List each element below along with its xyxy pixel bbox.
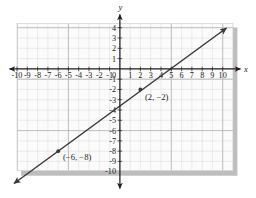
x-axis-label: x xyxy=(243,64,248,74)
coordinate-plane-svg: -10 -9 -8 -7 -6 -5 -4 -3 -2 -1 1 2 3 4 5… xyxy=(0,0,256,198)
y-tick-label: 2 xyxy=(112,44,116,53)
x-tick-label: -10 xyxy=(12,71,23,80)
x-tick-label: -4 xyxy=(75,71,82,80)
point-marker xyxy=(139,88,143,92)
x-tick-label: 1 xyxy=(128,71,132,80)
point-marker xyxy=(56,149,60,153)
y-tick-label: -4 xyxy=(109,106,116,115)
x-tick-label: 10 xyxy=(219,71,227,80)
x-tick-label: 8 xyxy=(200,71,204,80)
y-tick-label: 1 xyxy=(112,55,116,64)
y-tick-label: -8 xyxy=(109,147,116,156)
x-tick-label: 3 xyxy=(149,71,153,80)
y-tick-label: -5 xyxy=(109,116,116,125)
x-tick-label: -2 xyxy=(96,71,103,80)
x-tick-label: -3 xyxy=(86,71,93,80)
x-tick-label: 9 xyxy=(210,71,214,80)
x-tick-label: -5 xyxy=(65,71,72,80)
y-axis-label: y xyxy=(118,2,123,12)
y-tick-label: -2 xyxy=(109,85,116,94)
x-tick-label: 5 xyxy=(169,71,173,80)
origin-label: 0 xyxy=(112,71,116,80)
plot-background xyxy=(17,24,233,171)
x-tick-label: 2 xyxy=(138,71,142,80)
x-tick-label: 7 xyxy=(190,71,194,80)
y-tick-label: -10 xyxy=(105,167,116,176)
x-tick-label: -7 xyxy=(44,71,51,80)
x-tick-label: -9 xyxy=(24,71,31,80)
y-tick-label: -3 xyxy=(109,96,116,105)
x-tick-label: -6 xyxy=(55,71,62,80)
graph-figure: -10 -9 -8 -7 -6 -5 -4 -3 -2 -1 1 2 3 4 5… xyxy=(0,0,256,198)
x-tick-label: 6 xyxy=(180,71,184,80)
x-tick-label: -8 xyxy=(34,71,41,80)
y-tick-label: 4 xyxy=(112,24,116,33)
x-tick-label: 4 xyxy=(159,71,163,80)
y-tick-label: -6 xyxy=(109,127,116,136)
point-label-2: (−6, −8) xyxy=(63,152,91,162)
y-tick-label: -9 xyxy=(109,157,116,166)
y-tick-label: -7 xyxy=(109,137,116,146)
point-label-1: (2, −2) xyxy=(145,92,169,102)
y-tick-label: 3 xyxy=(112,34,116,43)
